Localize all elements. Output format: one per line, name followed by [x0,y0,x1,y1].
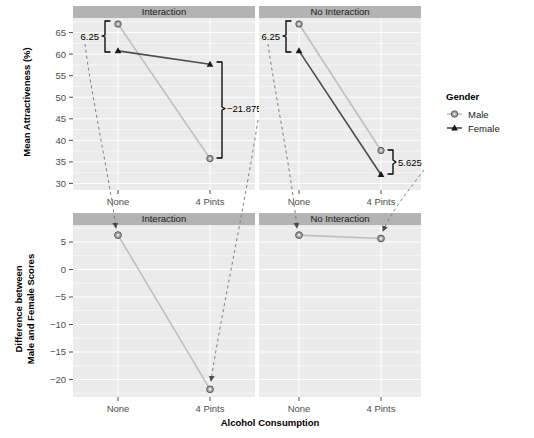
strip-top-right: No Interaction [259,6,421,18]
point-diff-none [296,232,303,239]
legend: Gender Male Female [446,91,500,134]
xtick-none-left: None [107,196,130,207]
strip-label-interaction: Interaction [142,6,186,17]
point-male-none [115,21,121,27]
annotation-label-5625: 5.625 [398,157,422,168]
legend-item-female[interactable]: Female [447,123,500,134]
x-axis-bottom: None 4 Pints None 4 Pints [107,397,396,414]
point-male-none [296,21,302,27]
legend-label-female: Female [468,123,500,134]
xtick-none-left: None [107,403,130,414]
annotation-label-6p25-right: 6.25 [262,31,281,42]
y-axis-title-bottom-line2: Male and Female Scores [25,254,36,364]
ytick-m20: −20 [50,374,66,385]
xtick-4pints-left: 4 Pints [195,196,224,207]
legend-label-male: Male [468,109,489,120]
strip-label-no-interaction: No Interaction [310,213,369,224]
y-axis-title-top: Mean Attractiveness (%) [21,47,32,156]
y-axis-bottom: 5 0 −5 −10 −15 −20 [50,236,73,385]
legend-item-male[interactable]: Male [447,109,489,120]
strip-bottom-right: No Interaction [259,213,421,225]
legend-title: Gender [446,91,480,102]
point-diff-4pints [207,386,214,393]
panel-background [259,221,421,397]
x-axis-top: None 4 Pints None 4 Pints [107,190,396,207]
panel-bottom-no-interaction [259,221,421,397]
xtick-4pints-left: 4 Pints [195,403,224,414]
ytick-30: 30 [55,178,66,189]
point-male-4pints [378,147,384,153]
ytick-55: 55 [55,70,66,81]
strip-label-interaction: Interaction [142,213,186,224]
y-axis-top: 65 60 55 50 45 40 35 30 [55,27,73,189]
point-male-4pints [207,155,213,161]
ytick-m5: −5 [55,291,66,302]
xtick-4pints-right: 4 Pints [366,196,395,207]
ytick-50: 50 [55,92,66,103]
ytick-m15: −15 [50,346,66,357]
panel-background [259,14,421,190]
facetted-line-chart: 6.25 −21.875 [0,0,534,438]
annotation-label-6p25-left: 6.25 [81,31,100,42]
x-axis-title: Alcohol Consumption [221,417,320,428]
ytick-40: 40 [55,135,66,146]
annotation-label-21875: −21.875 [227,103,262,114]
ytick-0: 0 [61,264,66,275]
ytick-45: 45 [55,113,66,124]
strip-label-no-interaction: No Interaction [310,6,369,17]
ytick-65: 65 [55,27,66,38]
strip-bottom-left: Interaction [73,213,255,225]
y-axis-title-bottom-line1: Difference between [13,265,24,352]
panel-background [73,221,255,397]
ytick-m10: −10 [50,319,66,330]
panel-bottom-interaction [73,221,255,397]
point-diff-none [115,232,122,239]
ytick-60: 60 [55,49,66,60]
chart-figure: 6.25 −21.875 [0,0,534,438]
xtick-none-right: None [288,403,311,414]
point-diff-4pints [378,235,385,242]
panel-top-interaction: 6.25 −21.875 [73,14,262,190]
panel-background [73,14,255,190]
xtick-4pints-right: 4 Pints [366,403,395,414]
xtick-none-right: None [288,196,311,207]
ytick-5: 5 [61,236,66,247]
strip-top-left: Interaction [73,6,255,18]
ytick-35: 35 [55,156,66,167]
panel-top-no-interaction: 6.25 5.625 [259,14,422,190]
